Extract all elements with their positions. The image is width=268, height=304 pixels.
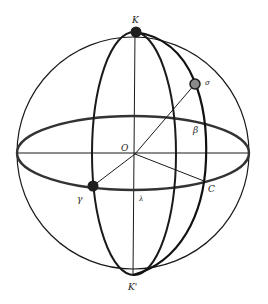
label-o: O xyxy=(121,143,129,153)
celestial-sphere-diagram: K σ β O C γ λ K' xyxy=(0,0,268,304)
gamma-dot xyxy=(88,181,99,192)
label-gamma: γ xyxy=(77,194,83,204)
label-c: C xyxy=(208,184,215,194)
pole-k-dot xyxy=(131,27,142,38)
line-o-c xyxy=(135,154,204,181)
line-o-gamma xyxy=(93,154,135,186)
label-beta: β xyxy=(192,125,198,135)
label-lambda: λ xyxy=(138,195,143,203)
label-sigma: σ xyxy=(205,79,210,87)
label-k-prime: K' xyxy=(127,282,137,292)
star-sigma-dot xyxy=(190,79,200,89)
label-k: K xyxy=(131,15,140,25)
